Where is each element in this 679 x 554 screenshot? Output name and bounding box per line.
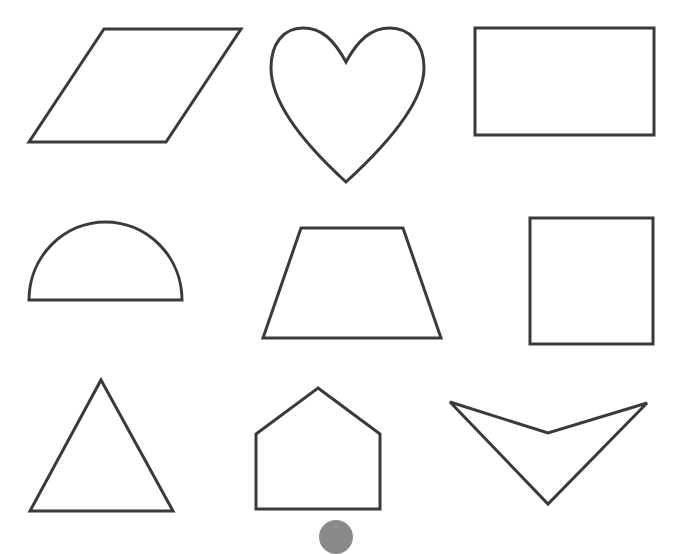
trapezoid-shape — [263, 228, 441, 338]
triangle-shape — [30, 380, 173, 511]
semicircle-shape — [29, 222, 182, 300]
seal-badge-icon — [319, 520, 353, 554]
heart-shape — [271, 28, 424, 182]
pentagon-shape — [256, 388, 380, 509]
rectangle-shape — [475, 28, 654, 135]
square-shape — [530, 218, 653, 344]
parallelogram-shape — [29, 29, 241, 142]
concave-kite-shape — [450, 402, 647, 504]
